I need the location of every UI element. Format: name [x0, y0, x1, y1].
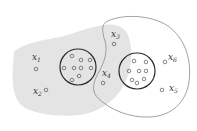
data-point [132, 59, 136, 63]
point-label: x6 [168, 52, 177, 63]
data-point [144, 69, 148, 73]
data-point [135, 81, 139, 85]
labeled-point-x6: x6 [163, 52, 177, 64]
labeled-point-x5: x5 [160, 83, 178, 94]
data-point [160, 88, 164, 92]
data-point [137, 69, 141, 73]
data-point [130, 78, 134, 82]
data-point [144, 60, 148, 64]
data-point [142, 77, 146, 81]
diagram-canvas: x1x2x3x4x5x6 [0, 0, 197, 131]
data-point [163, 60, 167, 64]
point-label: x5 [169, 83, 178, 94]
